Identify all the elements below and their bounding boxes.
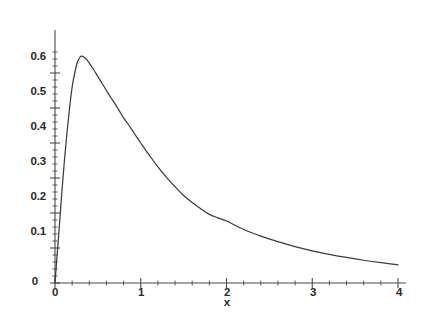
y-tick-label-0.6: 0.6 <box>8 50 46 62</box>
y-tick-label-0.4: 0.4 <box>8 120 46 132</box>
y-tick-label-0: 0 <box>8 275 38 287</box>
x-tick-label-0: 0 <box>44 286 66 298</box>
plot-area <box>0 0 422 315</box>
y-tick-label-0.3: 0.3 <box>8 155 46 167</box>
density-curve <box>55 56 398 283</box>
x-tick-label-3: 3 <box>302 286 324 298</box>
x-tick-label-4: 4 <box>388 286 410 298</box>
axes-group <box>50 30 406 288</box>
series-line-0 <box>55 56 398 283</box>
y-tick-label-0.1: 0.1 <box>8 225 46 237</box>
x-axis-title: x <box>216 296 238 308</box>
chart-figure: 0.6 0.5 0.4 0.3 0.2 0.1 0 0 1 2 3 4 x <box>0 0 422 315</box>
x-tick-label-1: 1 <box>130 286 152 298</box>
y-tick-label-0.5: 0.5 <box>8 85 46 97</box>
y-tick-label-0.2: 0.2 <box>8 190 46 202</box>
